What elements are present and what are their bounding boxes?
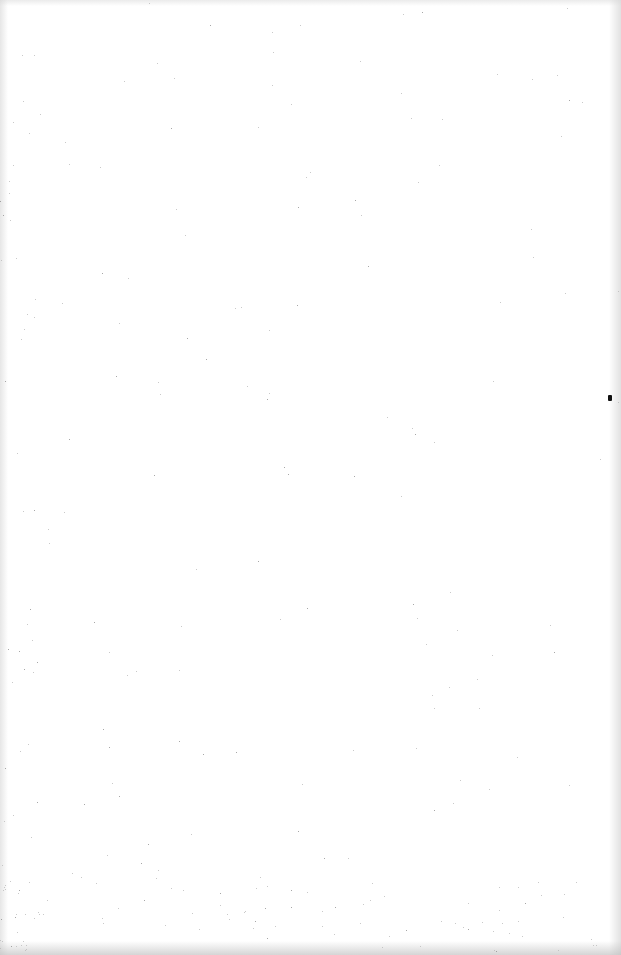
speckle	[220, 905, 221, 906]
speckle	[267, 399, 268, 400]
speckle	[269, 330, 270, 331]
speckle	[199, 929, 200, 930]
speckle	[19, 890, 20, 891]
speckle	[298, 207, 299, 208]
speckle	[418, 182, 419, 183]
speckle	[235, 308, 236, 309]
speckle	[149, 3, 150, 4]
speckle	[0, 201, 1, 202]
speckle	[5, 885, 6, 886]
speckle	[280, 619, 281, 620]
speckle	[439, 165, 440, 166]
speckle	[497, 74, 498, 75]
speckle	[382, 947, 383, 948]
speckle	[21, 945, 22, 946]
speckle	[509, 933, 510, 934]
speckle	[567, 8, 568, 9]
speckle	[43, 914, 44, 915]
speckle	[291, 104, 292, 105]
speckle	[10, 881, 11, 882]
speckle	[412, 428, 413, 429]
speckle	[499, 887, 500, 888]
speckle	[119, 796, 120, 797]
speckle	[156, 878, 157, 879]
speckle	[561, 136, 562, 137]
speckle	[34, 510, 35, 511]
speckle	[13, 165, 14, 166]
speckle	[434, 810, 435, 811]
speckle	[21, 339, 22, 340]
speckle	[107, 855, 108, 856]
speckle	[181, 626, 182, 627]
speckle	[322, 926, 323, 927]
speckle	[24, 669, 25, 670]
speckle	[591, 939, 592, 940]
speckle	[28, 744, 29, 745]
speckle	[141, 863, 142, 864]
speckle	[39, 914, 40, 915]
speckle	[363, 904, 364, 905]
speckle	[25, 914, 26, 915]
speckle	[502, 923, 503, 924]
speckle	[154, 475, 155, 476]
speckle	[116, 376, 117, 377]
speckle	[413, 604, 414, 605]
speckle	[23, 101, 24, 102]
speckle	[13, 122, 14, 123]
speckle	[273, 52, 274, 53]
speckle	[284, 467, 285, 468]
speckle	[434, 708, 435, 709]
speckle	[558, 950, 559, 951]
speckle	[191, 834, 192, 835]
speckle	[17, 932, 18, 933]
speckle	[582, 102, 583, 103]
speckle	[307, 892, 308, 893]
speckle	[16, 946, 17, 947]
speckle	[298, 831, 299, 832]
speckle	[94, 622, 95, 623]
speckle	[102, 918, 103, 919]
speckle	[49, 543, 50, 544]
speckle	[576, 882, 577, 883]
speckle	[453, 803, 454, 804]
speckle	[109, 652, 110, 653]
speckle	[518, 921, 519, 922]
speckle	[11, 946, 12, 947]
speckle	[569, 785, 570, 786]
speckle	[185, 235, 186, 236]
speckle	[40, 114, 41, 115]
speckle	[335, 907, 336, 908]
speckle	[33, 672, 34, 673]
speckle	[533, 257, 534, 258]
speckle	[269, 393, 270, 394]
speckle	[253, 928, 254, 929]
speckle	[229, 919, 230, 920]
speckle	[35, 299, 36, 300]
speckle	[442, 119, 443, 120]
speckle	[426, 644, 427, 645]
speckle	[1, 919, 2, 920]
speckle	[16, 914, 17, 915]
speckle	[103, 729, 104, 730]
speckle	[499, 910, 500, 911]
speckle	[27, 624, 28, 625]
speckle	[34, 918, 35, 919]
speckle	[23, 511, 24, 512]
speckle	[179, 741, 180, 742]
speckle	[420, 946, 421, 947]
speckle	[5, 768, 6, 769]
speckle	[468, 903, 469, 904]
speckle	[457, 630, 458, 631]
speckle	[384, 896, 385, 897]
speckle	[5, 889, 6, 890]
speckle	[522, 936, 523, 937]
speckle	[158, 870, 159, 871]
speckle	[550, 625, 551, 626]
speckle	[494, 950, 495, 951]
speckle	[160, 394, 161, 395]
speckle	[112, 783, 113, 784]
speckle	[241, 307, 242, 308]
speckle	[600, 459, 601, 460]
speckle	[203, 754, 204, 755]
speckle	[34, 317, 35, 318]
